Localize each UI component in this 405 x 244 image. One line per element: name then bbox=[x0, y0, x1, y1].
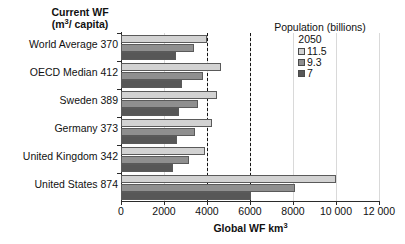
legend-title: Population (billions) bbox=[258, 21, 382, 33]
bar-7[interactable] bbox=[121, 164, 173, 172]
bar-11-5[interactable] bbox=[121, 147, 205, 155]
x-axis-tick-label: 6000 bbox=[238, 205, 261, 217]
bar-7[interactable] bbox=[121, 80, 182, 88]
y-axis-category-label: Germany 373 bbox=[0, 123, 118, 134]
y-axis-category-label: United Kingdom 342 bbox=[0, 151, 118, 162]
y-axis-category-label: OECD Median 412 bbox=[0, 67, 118, 78]
bar-11-5[interactable] bbox=[121, 175, 336, 183]
bar-group bbox=[121, 175, 379, 200]
y-axis-category-label: Sweden 389 bbox=[0, 95, 118, 106]
bar-9-3[interactable] bbox=[121, 100, 198, 108]
chart-container: Current WF (m3/ capita) Population (bill… bbox=[0, 0, 405, 244]
bar-group bbox=[121, 91, 379, 116]
x-axis-line bbox=[121, 201, 380, 202]
x-axis-tick-label: 2000 bbox=[152, 205, 175, 217]
bar-group bbox=[121, 63, 379, 88]
bar-9-3[interactable] bbox=[121, 184, 295, 192]
bar-9-3[interactable] bbox=[121, 72, 203, 80]
bar-11-5[interactable] bbox=[121, 35, 207, 43]
bar-9-3[interactable] bbox=[121, 128, 195, 136]
bar-group bbox=[121, 147, 379, 172]
bar-7[interactable] bbox=[121, 52, 176, 60]
gridline bbox=[379, 33, 380, 201]
bar-7[interactable] bbox=[121, 108, 179, 116]
bar-9-3[interactable] bbox=[121, 44, 194, 52]
y-axis-title-line1: Current WF bbox=[51, 6, 108, 18]
y-axis-title: Current WF (m3/ capita) bbox=[0, 6, 160, 30]
bar-7[interactable] bbox=[121, 192, 251, 200]
bar-11-5[interactable] bbox=[121, 63, 221, 71]
bar-7[interactable] bbox=[121, 136, 177, 144]
bar-11-5[interactable] bbox=[121, 119, 212, 127]
y-axis-title-line2: (m3/ capita) bbox=[52, 18, 109, 30]
bar-group bbox=[121, 35, 379, 60]
x-axis-title: Global WF km3 bbox=[121, 222, 380, 234]
bar-11-5[interactable] bbox=[121, 91, 217, 99]
x-axis-tick-label: 12 000 bbox=[363, 205, 395, 217]
y-axis-category-label: World Average 370 bbox=[0, 39, 118, 50]
x-axis-tick-label: 10 000 bbox=[320, 205, 352, 217]
bar-group bbox=[121, 119, 379, 144]
plot-area bbox=[121, 33, 379, 200]
x-axis-tick-label: 4000 bbox=[195, 205, 218, 217]
bar-9-3[interactable] bbox=[121, 156, 189, 164]
x-axis-tick-label: 8000 bbox=[281, 205, 304, 217]
y-axis-category-label: United States 874 bbox=[0, 179, 118, 190]
x-axis-tick-label: 0 bbox=[118, 205, 124, 217]
